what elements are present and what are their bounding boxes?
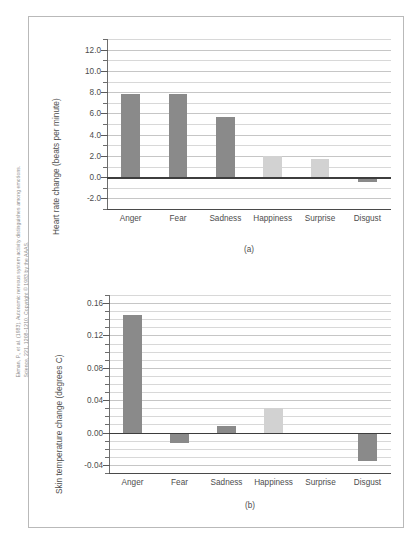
y-tick-label: -2.0 [87,194,101,203]
y-tick-label: 0.0 [90,173,101,182]
plot-area-a: 12.010.08.06.04.02.00.0-2.0 AngerFearSad… [107,39,391,209]
figure-frame: Heart rate change (beats per minute) 12.… [28,16,404,528]
bar-series-a [107,39,391,209]
zero-baseline-b [109,433,391,434]
x-label-happiness: Happiness [253,214,292,223]
bar-anger [121,94,140,177]
y-tick-label: 0.00 [87,428,103,437]
y-tick-label: 0.16 [87,299,103,308]
x-label-surprise: Surprise [305,214,336,223]
x-label-disgust: Disgust [354,214,381,223]
x-label-sadness: Sadness [211,478,243,487]
bar-fear [170,433,189,444]
x-axis-line-b [109,473,391,474]
chart-panel-b: Skin temperature change (degrees C) 0.16… [29,279,405,527]
zero-baseline-a [107,177,391,178]
y-tick-label: -0.04 [84,460,103,469]
x-label-anger: Anger [120,214,142,223]
source-citation: Ekman, P., et al. (1983). Autonomic nerv… [15,128,30,378]
x-label-happiness: Happiness [254,478,293,487]
bar-sadness [216,117,235,178]
y-tick-label: 6.0 [90,109,101,118]
bar-fear [169,94,188,177]
x-axis-labels-b: AngerFearSadnessHappinessSurpriseDisgust [109,478,391,492]
bar-surprise [311,159,330,178]
y-tick-label: 4.0 [90,130,101,139]
bar-happiness [263,156,282,177]
y-axis-title-b: Skin temperature change (degrees C) [54,354,64,494]
plot-area-b: 0.160.120.080.040.00-0.04 AngerFearSadne… [109,295,391,473]
panel-caption-a: (a) [107,245,391,254]
y-tick-label: 2.0 [90,151,101,160]
x-label-disgust: Disgust [354,478,381,487]
y-tick-label: 10.0 [85,66,101,75]
x-label-anger: Anger [122,478,144,487]
x-label-fear: Fear [171,478,188,487]
y-tick-label: 0.04 [87,396,103,405]
chart-panel-a: Heart rate change (beats per minute) 12.… [29,23,405,273]
x-label-fear: Fear [170,214,187,223]
bar-anger [123,315,142,432]
x-axis-labels-a: AngerFearSadnessHappinessSurpriseDisgust [107,214,391,228]
x-label-sadness: Sadness [209,214,241,223]
y-tick-label: 12.0 [85,45,101,54]
bar-happiness [264,408,283,432]
y-axis-title-a: Heart rate change (beats per minute) [51,98,61,235]
bar-disgust [358,433,377,461]
bar-series-b [109,295,391,473]
panel-caption-b: (b) [109,501,391,510]
y-tick-label: 0.12 [87,331,103,340]
x-axis-line-a [107,209,391,210]
x-label-surprise: Surprise [305,478,336,487]
y-tick-label: 0.08 [87,363,103,372]
y-tick-label: 8.0 [90,88,101,97]
